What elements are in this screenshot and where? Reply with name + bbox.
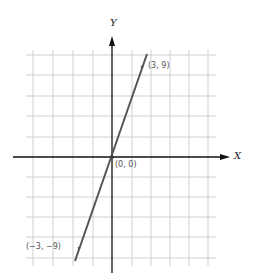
coordinate-graph <box>0 0 254 280</box>
point-label-3-9: (3, 9) <box>148 61 170 70</box>
point-label-neg3-neg9: (−3, −9) <box>26 242 61 251</box>
point-3-9 <box>141 66 144 69</box>
point-label-origin: (0, 0) <box>115 160 137 169</box>
x-axis-arrow-icon <box>220 154 230 160</box>
y-axis-arrow-icon <box>109 36 115 46</box>
x-axis-label: X <box>234 150 241 161</box>
point-neg3-neg9 <box>78 247 81 250</box>
grid <box>26 50 216 266</box>
y-axis-label: Y <box>110 17 117 28</box>
point-origin <box>110 155 114 159</box>
